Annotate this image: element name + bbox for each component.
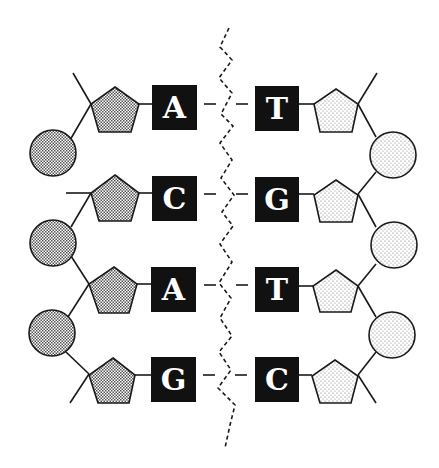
base-letter: G bbox=[161, 362, 187, 397]
sugar-pentagon bbox=[89, 358, 135, 403]
sugar-pentagon bbox=[91, 87, 139, 132]
base-letter: A bbox=[162, 90, 187, 125]
base-box-left-1: A bbox=[152, 85, 197, 130]
sugar-pentagon bbox=[312, 360, 358, 403]
phosphate-circle bbox=[30, 130, 76, 176]
hydrogen-bonds bbox=[203, 104, 248, 375]
base-letter: A bbox=[161, 272, 186, 307]
phosphate-circle bbox=[370, 132, 416, 178]
base-box-right-2: G bbox=[255, 177, 299, 222]
left-phosphates bbox=[29, 130, 76, 356]
phosphate-circle bbox=[29, 310, 75, 356]
phosphate-circle bbox=[371, 222, 417, 268]
sugar-pentagon bbox=[314, 89, 358, 132]
base-box-left-4: G bbox=[151, 357, 196, 402]
right-sugars bbox=[312, 89, 358, 403]
phosphate-circle bbox=[369, 312, 415, 358]
base-box-right-1: T bbox=[255, 86, 299, 131]
base-letter: C bbox=[265, 362, 289, 397]
right-bases: T G T C bbox=[255, 86, 299, 402]
phosphate-circle bbox=[30, 220, 76, 266]
base-letter: T bbox=[266, 91, 289, 126]
sugar-pentagon bbox=[91, 175, 139, 221]
sugar-pentagon bbox=[313, 270, 358, 312]
sugar-pentagon bbox=[89, 267, 137, 313]
sugar-pentagon bbox=[314, 180, 358, 222]
dna-diagram: A C A G T G T C bbox=[0, 0, 439, 468]
sugar-base-connectors bbox=[135, 104, 314, 375]
left-sugars bbox=[89, 87, 139, 403]
base-box-right-3: T bbox=[255, 267, 299, 312]
base-letter: T bbox=[266, 272, 289, 307]
base-letter: C bbox=[163, 181, 187, 216]
base-box-right-4: C bbox=[255, 357, 299, 402]
left-bases: A C A G bbox=[151, 85, 197, 402]
base-letter: G bbox=[264, 182, 290, 217]
split-zigzag-line bbox=[218, 28, 235, 448]
right-phosphates bbox=[369, 132, 417, 358]
base-box-left-3: A bbox=[151, 267, 196, 312]
base-box-left-2: C bbox=[152, 176, 197, 221]
